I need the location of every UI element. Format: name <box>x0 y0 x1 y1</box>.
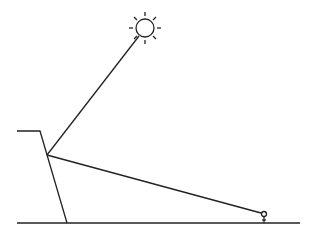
line-to-sun <box>47 36 139 155</box>
sun-icon <box>129 12 161 44</box>
cliff-sun-diagram <box>0 0 322 239</box>
cliff-outline <box>17 131 67 223</box>
line-to-person <box>47 155 261 213</box>
person-icon <box>262 212 267 224</box>
